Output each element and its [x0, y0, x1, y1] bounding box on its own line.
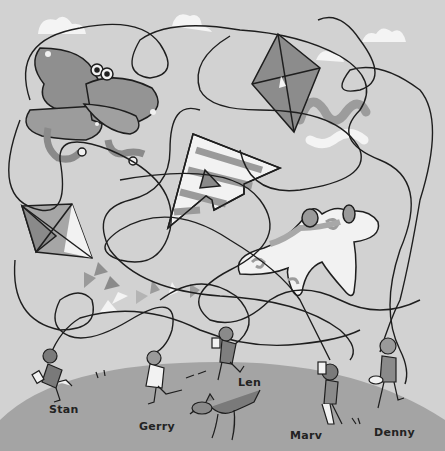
kite-maze-illustration: Stan Gerry Len Marv Denny — [0, 0, 445, 451]
child-label-gerry: Gerry — [139, 420, 175, 433]
scene-svg — [0, 0, 445, 451]
child-label-marv: Marv — [290, 429, 322, 442]
child-label-denny: Denny — [374, 426, 415, 439]
child-label-len: Len — [238, 376, 261, 389]
child-label-stan: Stan — [49, 403, 79, 416]
